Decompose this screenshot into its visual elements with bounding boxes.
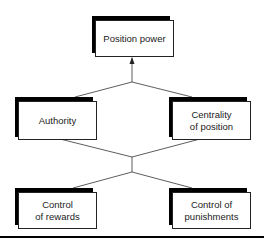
centrality-of-position-label: Centrality of position bbox=[172, 101, 251, 140]
node-authority: Authority bbox=[15, 97, 97, 140]
authority-label: Authority bbox=[18, 101, 97, 140]
node-control-of-rewards: Control of rewards bbox=[15, 188, 97, 229]
node-centrality-of-position: Centrality of position bbox=[169, 97, 251, 140]
edge-rewards bbox=[73, 172, 132, 188]
edge-authority-lower bbox=[60, 139, 132, 157]
control-of-punishments-label: Control of punishments bbox=[172, 192, 251, 229]
edge-centrality-merge bbox=[132, 82, 192, 97]
control-of-rewards-label: Control of rewards bbox=[18, 192, 97, 229]
node-control-of-punishments: Control of punishments bbox=[169, 188, 251, 229]
bottom-divider bbox=[0, 236, 264, 238]
arrowhead-icon bbox=[130, 57, 135, 64]
edge-centrality-lower bbox=[132, 139, 200, 157]
edge-punishments bbox=[132, 172, 192, 188]
edge-authority-merge bbox=[75, 82, 132, 97]
node-position-power: Position power bbox=[92, 16, 174, 57]
position-power-label: Position power bbox=[95, 20, 174, 57]
